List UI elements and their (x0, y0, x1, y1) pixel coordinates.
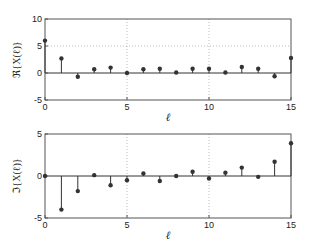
stem-marker (240, 165, 244, 169)
x-tick-label: 10 (204, 220, 214, 230)
x-tick-label: 15 (286, 102, 296, 112)
stem-marker (76, 189, 80, 193)
stem-marker (272, 160, 276, 164)
y-tick-label: 0 (37, 68, 42, 78)
y-tick-label: 5 (37, 41, 42, 51)
stem-marker (256, 66, 260, 70)
stem-marker (59, 207, 63, 211)
y-tick-label: 0 (37, 171, 42, 181)
x-tick-label: 10 (204, 102, 214, 112)
stem-marker (174, 70, 178, 74)
grid-lines (45, 19, 291, 100)
subplot-real: 051015-50510ℓℜ{X(ℓ)} (11, 14, 296, 123)
stem-marker (76, 75, 80, 79)
stem-marker (207, 66, 211, 70)
axes-box (45, 19, 291, 100)
stem-marker (240, 65, 244, 69)
x-tick-label: 15 (286, 220, 296, 230)
x-axis-label: ℓ (166, 229, 171, 241)
stem-marker (125, 178, 129, 182)
stem-marker (174, 174, 178, 178)
stem-marker (256, 175, 260, 179)
stem-marker (158, 179, 162, 183)
stem-marker (141, 67, 145, 71)
stem-marker (272, 74, 276, 78)
x-tick-label: 0 (42, 220, 47, 230)
stem-marker (158, 66, 162, 70)
stem-marker (59, 56, 63, 60)
y-tick-label: -5 (34, 95, 42, 105)
stem-marker (223, 70, 227, 74)
stem-marker (43, 174, 47, 178)
y-tick-label: 5 (37, 129, 42, 139)
stem-marker (141, 171, 145, 175)
subplot-imag: 051015-505ℓℑ{X(ℓ)} (11, 129, 296, 241)
stem-marker (223, 170, 227, 174)
x-tick-label: 0 (42, 102, 47, 112)
stem-marker (92, 173, 96, 177)
y-tick-label: -5 (34, 213, 42, 223)
stem-marker (289, 56, 293, 60)
stem-marker (190, 170, 194, 174)
stem-marker (43, 38, 47, 42)
stem-marker (125, 71, 129, 75)
stem-marker (92, 67, 96, 71)
y-axis-label: ℑ{X(ℓ)} (11, 158, 23, 193)
y-tick-label: 10 (32, 14, 42, 24)
stem-plots-figure: 051015-50510ℓℜ{X(ℓ)}051015-505ℓℑ{X(ℓ)} (0, 0, 309, 246)
y-axis-label: ℜ{X(ℓ)} (11, 41, 23, 77)
stem-marker (108, 65, 112, 69)
stem-marker (108, 183, 112, 187)
x-tick-label: 5 (124, 102, 129, 112)
stem-marker (207, 176, 211, 180)
stem-marker (289, 141, 293, 145)
x-tick-label: 5 (124, 220, 129, 230)
stem-marker (190, 66, 194, 70)
x-axis-label: ℓ (166, 111, 171, 123)
